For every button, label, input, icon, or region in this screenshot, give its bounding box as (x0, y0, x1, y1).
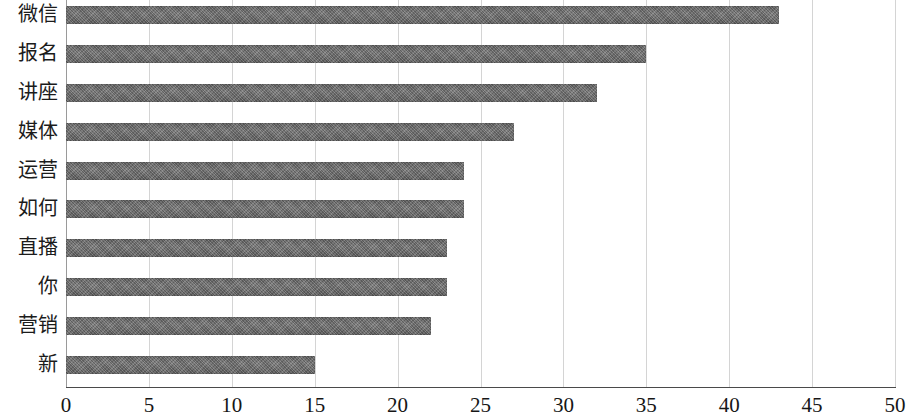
bar (66, 123, 514, 141)
category-label: 运营 (0, 160, 58, 180)
x-axis-tick-label: 20 (387, 393, 408, 417)
x-axis-line (66, 387, 896, 388)
bar (66, 6, 779, 24)
x-axis-tick-label: 0 (61, 393, 72, 417)
x-axis-tick-label: 30 (553, 393, 574, 417)
bar (66, 278, 447, 296)
category-label: 报名 (0, 43, 58, 63)
x-axis-tick-label: 15 (304, 393, 325, 417)
gridline (895, 0, 896, 388)
gridline (812, 0, 813, 388)
x-axis-tick-label: 35 (636, 393, 657, 417)
y-axis-category-labels: 微信 报名 讲座 媒体 运营 如何 直播 你 营销 新 (0, 0, 58, 388)
gridline (729, 0, 730, 388)
x-axis-tick-label: 45 (802, 393, 823, 417)
bar-chart: 微信 报名 讲座 媒体 运营 如何 直播 你 营销 新 051015202530… (0, 0, 907, 420)
gridline (646, 0, 647, 388)
bar (66, 239, 447, 257)
x-axis-tick-label: 10 (221, 393, 242, 417)
category-label: 讲座 (0, 82, 58, 102)
bar (66, 356, 315, 374)
x-axis-tick-labels: 05101520253035404550 (0, 389, 907, 420)
x-axis-tick-label: 5 (144, 393, 155, 417)
category-label: 微信 (0, 4, 58, 24)
bar (66, 317, 431, 335)
bar (66, 162, 464, 180)
x-axis-tick-label: 25 (470, 393, 491, 417)
category-label: 新 (0, 354, 58, 374)
bar (66, 45, 646, 63)
plot-area (66, 0, 895, 388)
category-label: 媒体 (0, 121, 58, 141)
x-axis-tick-label: 50 (885, 393, 906, 417)
category-label: 如何 (0, 198, 58, 218)
category-label: 直播 (0, 237, 58, 257)
bar (66, 84, 597, 102)
category-label: 你 (0, 276, 58, 296)
bar (66, 200, 464, 218)
category-label: 营销 (0, 315, 58, 335)
x-axis-tick-label: 40 (719, 393, 740, 417)
